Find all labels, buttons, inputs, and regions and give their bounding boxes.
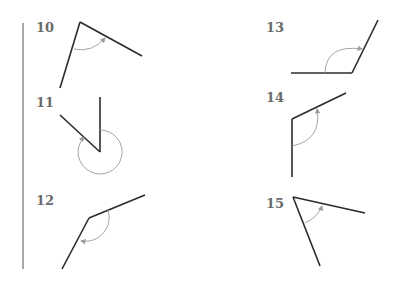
angle-figure-12: [62, 195, 145, 269]
angle-figure-13: [291, 20, 378, 73]
angle-figure-14: [292, 93, 346, 177]
angle-figure-11: [60, 97, 122, 174]
angle-figure-15: [293, 197, 365, 266]
angle-arc-icon: [292, 109, 318, 146]
angle-arc-icon: [305, 206, 322, 223]
angle-arc-icon: [325, 48, 362, 73]
angle-arc-icon: [74, 38, 105, 50]
angle-diagrams: [0, 0, 395, 286]
angle-figure-10: [60, 22, 142, 88]
